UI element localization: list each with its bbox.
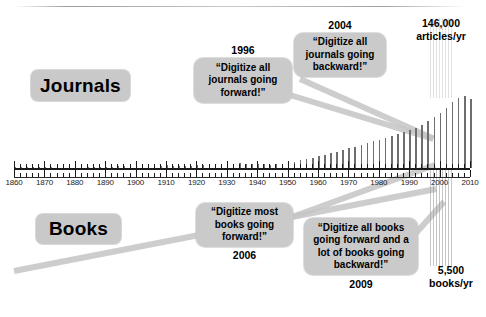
- axis-tick-label: 1900: [127, 178, 144, 187]
- axis-tick-major: [470, 161, 471, 168]
- callout-journals-backward-text: “Digitize all journals going backward!”: [300, 36, 380, 74]
- callout-journals-forward: “Digitize all journals going forward!”: [194, 58, 292, 103]
- axis-tick-label: 1920: [188, 178, 205, 187]
- axis-tick-major: [196, 161, 197, 168]
- axis-tick-label: 1930: [218, 178, 235, 187]
- callout-journals-backward: “Digitize all journals going backward!”: [294, 33, 386, 77]
- axis-tick-label: 1910: [158, 178, 175, 187]
- axis-tick-major: [257, 170, 258, 177]
- axis-tick-major: [136, 170, 137, 177]
- axis-tick-label: 1960: [310, 178, 327, 187]
- histogram-bar: [458, 98, 460, 168]
- slide-canvas: 1860187018801890190019101920193019401950…: [0, 0, 486, 317]
- axis-tick-label: 2010: [462, 178, 479, 187]
- axis-tick-major: [227, 161, 228, 168]
- axis-tick-major: [288, 170, 289, 177]
- axis-tick-label: 1970: [340, 178, 357, 187]
- axis-tick-major: [166, 170, 167, 177]
- axis-tick-major: [14, 170, 15, 177]
- category-pill-journals-label: Journals: [40, 75, 121, 97]
- category-pill-books: Books: [36, 214, 121, 244]
- axis-tick-label: 1980: [370, 178, 387, 187]
- histogram-bar: [464, 96, 466, 168]
- stat-books-value: 5,500: [420, 264, 482, 277]
- axis-tick-major: [105, 161, 106, 168]
- callout-year-2006: 2006: [196, 249, 293, 261]
- axis-tick-major: [409, 170, 410, 177]
- stat-books-unit: books/yr: [420, 277, 482, 290]
- axis-tick-major: [288, 161, 289, 168]
- axis-tick-major: [379, 170, 380, 177]
- category-pill-journals: Journals: [31, 70, 130, 101]
- histogram-bar: [446, 108, 448, 168]
- axis-tick-major: [75, 170, 76, 177]
- axis-tick-major: [105, 170, 106, 177]
- axis-tick-label: 1880: [66, 178, 83, 187]
- axis-tick-labels: 1860187018801890190019101920193019401950…: [0, 178, 486, 190]
- axis-ticks-upper: [14, 161, 470, 168]
- stat-articles-value: 146,000: [404, 17, 478, 30]
- callout-year-2004: 2004: [294, 19, 386, 31]
- axis-tick-major: [440, 161, 441, 168]
- axis-tick-label: 1870: [36, 178, 53, 187]
- callout-books-both: “Digitize all books going forward and a …: [304, 218, 418, 275]
- axis-tick-label: 1860: [6, 178, 23, 187]
- axis-tick-label: 2000: [431, 178, 448, 187]
- callout-year-1996: 1996: [194, 44, 292, 56]
- axis-tick-major: [14, 161, 15, 168]
- axis-tick-major: [75, 161, 76, 168]
- stat-articles-per-year: 146,000 articles/yr: [404, 17, 478, 43]
- histogram-bar: [440, 113, 442, 168]
- histogram-bar: [470, 99, 472, 168]
- axis-tick-major: [196, 170, 197, 177]
- callout-journals-forward-text: “Digitize all journals going forward!”: [200, 62, 286, 100]
- callout-books-both-text: “Digitize all books going forward and a …: [310, 222, 412, 272]
- journal-article-histogram: [14, 96, 470, 168]
- axis-tick-major: [227, 170, 228, 177]
- axis-tick-major: [44, 161, 45, 168]
- axis-tick-label: 1990: [401, 178, 418, 187]
- callout-year-2009: 2009: [304, 278, 418, 290]
- axis-tick-major: [318, 161, 319, 168]
- axis-tick-label: 1890: [97, 178, 114, 187]
- axis-tick-major: [409, 161, 410, 168]
- axis-ticks-lower: [14, 170, 470, 177]
- axis-tick-major: [379, 161, 380, 168]
- axis-tick-major: [257, 161, 258, 168]
- axis-tick-label: 1950: [279, 178, 296, 187]
- axis-tick-major: [440, 170, 441, 177]
- axis-tick-major: [318, 170, 319, 177]
- axis-tick-major: [470, 170, 471, 177]
- axis-tick-major: [166, 161, 167, 168]
- axis-tick-major: [348, 161, 349, 168]
- axis-tick-major: [136, 161, 137, 168]
- category-pill-books-label: Books: [49, 218, 108, 240]
- axis-tick-major: [44, 170, 45, 177]
- callout-books-forward: “Digitize most books going forward!”: [196, 203, 293, 247]
- axis-tick-major: [348, 170, 349, 177]
- axis-tick-label: 1940: [249, 178, 266, 187]
- stat-articles-unit: articles/yr: [404, 30, 478, 43]
- histogram-bar: [452, 102, 454, 168]
- top-scan-rule: [14, 6, 466, 7]
- stat-books-per-year: 5,500 books/yr: [420, 264, 482, 290]
- callout-books-forward-text: “Digitize most books going forward!”: [202, 206, 287, 244]
